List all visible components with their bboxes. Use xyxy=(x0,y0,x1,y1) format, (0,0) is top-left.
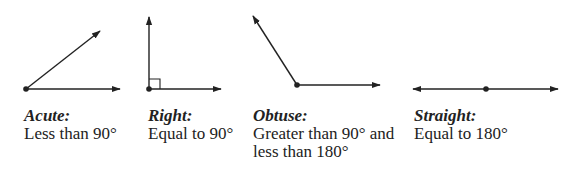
straight-vertex xyxy=(483,86,489,92)
acute-ray-diagonal xyxy=(26,31,100,89)
obtuse-description-line-2: less than 180° xyxy=(253,143,394,161)
right-description: Equal to 90° xyxy=(148,125,233,143)
straight-caption: Straight: Equal to 180° xyxy=(414,107,508,143)
obtuse-description-line-1: Greater than 90° and xyxy=(253,125,394,143)
obtuse-ray-diagonal xyxy=(253,16,297,85)
obtuse-title: Obtuse: xyxy=(253,107,394,125)
right-title: Right: xyxy=(148,107,233,125)
acute-vertex xyxy=(23,86,29,92)
obtuse-caption: Obtuse: Greater than 90° and less than 1… xyxy=(253,107,394,161)
acute-caption: Acute: Less than 90° xyxy=(24,107,117,143)
straight-title: Straight: xyxy=(414,107,508,125)
acute-angle xyxy=(23,31,120,92)
acute-description: Less than 90° xyxy=(24,125,117,143)
right-angle xyxy=(146,17,221,92)
straight-angle xyxy=(413,86,558,92)
obtuse-vertex xyxy=(294,82,300,88)
obtuse-angle xyxy=(253,16,380,88)
acute-title: Acute: xyxy=(24,107,117,125)
right-vertex xyxy=(146,86,152,92)
right-caption: Right: Equal to 90° xyxy=(148,107,233,143)
straight-description: Equal to 180° xyxy=(414,125,508,143)
